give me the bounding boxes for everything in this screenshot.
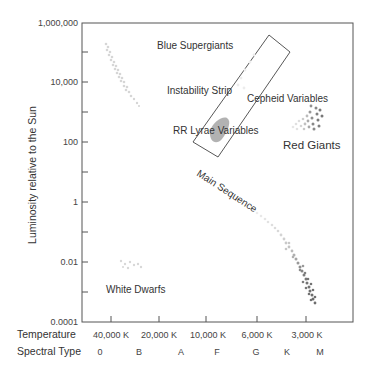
- x-tick-label: 10,000 K: [190, 330, 226, 340]
- y-axis-title: Luminosity relative to the Sun: [26, 106, 38, 244]
- spectral-type-label: M: [316, 347, 324, 357]
- y-axis-tick-labels: 1,000,000 10,000 100 1 0.01 0.0001: [38, 18, 78, 327]
- x-axis-spectral-labels: 0 B A F G K M: [97, 347, 323, 357]
- y-tick-label: 0.01: [60, 257, 78, 267]
- x-tick-label: 3,000 K: [291, 330, 322, 340]
- y-tick-label: 10,000: [50, 77, 78, 87]
- spectral-type-label: G: [252, 347, 259, 357]
- label-rr-lyrae-variables: RR Lyrae Variables: [173, 125, 259, 136]
- x-tick-label: 6,000 K: [241, 330, 272, 340]
- cepheid-points: [237, 54, 256, 90]
- x-axis-temperature-labels: 40,000 K 20,000 K 10,000 K 6,000 K 3,000…: [93, 330, 323, 340]
- spectral-type-label: F: [214, 347, 220, 357]
- spectral-type-label: B: [136, 347, 142, 357]
- label-main-sequence: Main Sequence: [195, 167, 260, 214]
- y-axis-ticks: [82, 52, 88, 292]
- x-axis-ticks: [111, 316, 306, 322]
- label-white-dwarfs: White Dwarfs: [106, 284, 165, 295]
- label-red-giants: Red Giants: [283, 139, 341, 151]
- y-tick-label: 1: [73, 197, 78, 207]
- y-tick-label: 1,000,000: [38, 18, 78, 28]
- red-giants-points: [292, 105, 324, 131]
- main-sequence-points: [252, 209, 317, 305]
- spectral-type-label: K: [284, 347, 290, 357]
- label-blue-supergiants: Blue Supergiants: [157, 40, 233, 51]
- x-tick-label: 40,000 K: [93, 330, 129, 340]
- x-tick-label: 20,000 K: [141, 330, 177, 340]
- spectral-type-label: A: [178, 347, 184, 357]
- y-tick-label: 0.0001: [50, 317, 78, 327]
- label-instability-strip: Instability Strip: [167, 85, 232, 96]
- spectral-type-label: 0: [97, 347, 102, 357]
- x-axis-title-temperature: Temperature: [17, 328, 76, 340]
- blue-supergiants-points: [105, 43, 140, 107]
- plot-frame: [82, 23, 353, 322]
- label-cepheid-variables: Cepheid Variables: [247, 93, 328, 104]
- white-dwarfs-points: [120, 260, 142, 269]
- hr-diagram-chart: 1,000,000 10,000 100 1 0.01 0.0001 Lumin…: [0, 0, 372, 375]
- x-axis-title-spectral-type: Spectral Type: [17, 345, 81, 357]
- y-tick-label: 100: [63, 137, 78, 147]
